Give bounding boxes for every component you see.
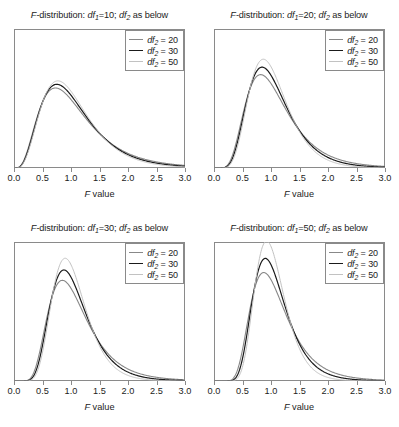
legend: df2 = 20df2 = 30df2 = 50 (325, 30, 384, 71)
chart-panel-top-left: F-distribution: df1=10; df2 as belowdf2 … (0, 0, 199, 213)
legend-item-label: df2 = 50 (147, 270, 178, 280)
legend-item-df2-20: df2 = 20 (129, 34, 178, 45)
x-tick-label: 2.0 (122, 173, 135, 183)
x-tick-label: 1.0 (265, 173, 278, 183)
legend-line-swatch (329, 39, 343, 40)
x-tick (214, 168, 215, 172)
legend-item-df2-50: df2 = 50 (129, 56, 178, 67)
x-tick-label: 2.5 (150, 386, 163, 396)
x-tick-label: 1.0 (65, 386, 78, 396)
x-tick (128, 381, 129, 385)
x-axis-title: F value (199, 189, 399, 199)
legend-item-df2-50: df2 = 50 (129, 269, 178, 280)
x-tick-label: 0.0 (208, 386, 221, 396)
x-tick-label: 0.0 (8, 386, 21, 396)
x-tick-label: 2.5 (350, 173, 363, 183)
legend-line-swatch (329, 274, 343, 275)
curve-df2-20 (214, 273, 385, 381)
x-tick (243, 168, 244, 172)
x-tick-label: 3.0 (379, 173, 392, 183)
x-tick (385, 381, 386, 385)
x-tick (100, 381, 101, 385)
x-tick (43, 168, 44, 172)
x-tick (328, 381, 329, 385)
x-tick (157, 168, 158, 172)
x-tick (43, 381, 44, 385)
legend-item-df2-50: df2 = 50 (329, 269, 378, 280)
x-tick (385, 168, 386, 172)
x-tick (300, 381, 301, 385)
panel-title: F-distribution: df1=20; df2 as below (199, 10, 399, 21)
chart-panel-bottom-left: F-distribution: df1=30; df2 as belowdf2 … (0, 213, 199, 427)
legend-item-label: df2 = 50 (347, 270, 378, 280)
x-tick-label: 3.0 (379, 386, 392, 396)
x-tick-label: 2.5 (150, 173, 163, 183)
x-tick-label: 3.0 (179, 386, 192, 396)
curve-df2-20 (214, 75, 385, 168)
x-tick (243, 381, 244, 385)
chart-panel-bottom-right: F-distribution: df1=50; df2 as belowdf2 … (199, 213, 399, 427)
legend-item-label: df2 = 50 (347, 57, 378, 67)
x-tick (271, 168, 272, 172)
legend-item-df2-20: df2 = 20 (129, 247, 178, 258)
legend-line-swatch (129, 50, 143, 51)
plot-area: df2 = 20df2 = 30df2 = 50 (214, 29, 385, 168)
curve-df2-50 (14, 81, 185, 168)
plot-area: df2 = 20df2 = 30df2 = 50 (14, 29, 185, 168)
x-tick-label: 1.5 (293, 386, 306, 396)
x-tick (357, 168, 358, 172)
x-tick-label: 1.5 (293, 173, 306, 183)
x-tick (71, 381, 72, 385)
x-tick (128, 168, 129, 172)
panel-title: F-distribution: df1=10; df2 as below (0, 10, 199, 21)
legend: df2 = 20df2 = 30df2 = 50 (125, 243, 184, 284)
x-axis-title: F value (0, 189, 199, 199)
chart-panel-top-right: F-distribution: df1=20; df2 as belowdf2 … (199, 0, 399, 213)
legend-item-label: df2 = 20 (347, 35, 378, 45)
x-tick-label: 2.0 (322, 173, 335, 183)
panel-title: F-distribution: df1=30; df2 as below (0, 223, 199, 234)
plot-area: df2 = 20df2 = 30df2 = 50 (14, 242, 185, 381)
panel-title: F-distribution: df1=50; df2 as below (199, 223, 399, 234)
legend-line-swatch (129, 263, 143, 264)
x-tick-label: 2.0 (122, 386, 135, 396)
x-axis-title: F value (0, 402, 199, 412)
legend-item-df2-30: df2 = 30 (329, 45, 378, 56)
figure-grid: F-distribution: df1=10; df2 as belowdf2 … (0, 0, 399, 427)
legend: df2 = 20df2 = 30df2 = 50 (125, 30, 184, 71)
legend-line-swatch (329, 61, 343, 62)
legend-item-df2-30: df2 = 30 (329, 258, 378, 269)
x-tick-label: 0.5 (236, 386, 249, 396)
x-tick (214, 381, 215, 385)
x-tick (185, 168, 186, 172)
x-tick (157, 381, 158, 385)
legend-item-df2-20: df2 = 20 (329, 34, 378, 45)
x-tick (357, 381, 358, 385)
legend-item-label: df2 = 20 (347, 248, 378, 258)
x-tick-label: 1.5 (93, 386, 106, 396)
x-tick (14, 381, 15, 385)
plot-area: df2 = 20df2 = 30df2 = 50 (214, 242, 385, 381)
x-tick (328, 168, 329, 172)
curve-df2-30 (214, 67, 385, 168)
legend-line-swatch (129, 61, 143, 62)
x-tick-label: 0.5 (236, 173, 249, 183)
x-tick-label: 0.5 (36, 386, 49, 396)
x-tick (100, 168, 101, 172)
legend-item-label: df2 = 50 (147, 57, 178, 67)
legend: df2 = 20df2 = 30df2 = 50 (325, 243, 384, 284)
x-tick-label: 0.0 (8, 173, 21, 183)
legend-item-label: df2 = 30 (147, 259, 178, 269)
legend-line-swatch (129, 39, 143, 40)
legend-line-swatch (129, 274, 143, 275)
legend-line-swatch (329, 50, 343, 51)
curve-df2-20 (14, 88, 185, 168)
x-tick (300, 168, 301, 172)
legend-item-df2-50: df2 = 50 (329, 56, 378, 67)
x-tick-label: 1.0 (65, 173, 78, 183)
x-tick (185, 381, 186, 385)
legend-item-df2-30: df2 = 30 (129, 45, 178, 56)
x-tick (71, 168, 72, 172)
x-tick-label: 0.0 (208, 173, 221, 183)
legend-line-swatch (329, 252, 343, 253)
